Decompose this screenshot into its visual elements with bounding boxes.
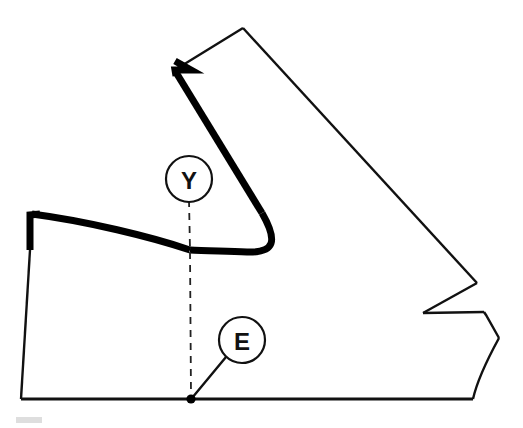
thick-outline-group: [30, 61, 272, 252]
dashed-axis-lower: [190, 252, 191, 396]
thick-left-sweep: [32, 214, 190, 250]
dashed-axis-group: [189, 200, 191, 396]
edge-top-right-diagonal: [243, 28, 477, 283]
callout-balloon-e[interactable]: E: [219, 317, 265, 363]
edge-bottom-right-curve: [473, 338, 499, 399]
edge-right-point-to-notch: [484, 312, 499, 338]
thick-left-bracket: [30, 214, 40, 250]
thick-hook-curve: [190, 213, 272, 252]
dashed-axis-upper: [189, 200, 190, 250]
faint-artifact-mark: [16, 417, 42, 423]
edge-left-vertical: [21, 250, 30, 399]
notch-upper-edge: [423, 283, 477, 313]
edge-top-left-diagonal: [178, 28, 243, 68]
origin-point-e: [186, 394, 195, 403]
thick-upper-shoulder-step: [175, 61, 191, 76]
notch-lower-edge: [423, 312, 484, 313]
line-drawing-svg: Y E: [0, 0, 523, 428]
callout-label-e: E: [234, 328, 250, 355]
callout-label-y: Y: [181, 167, 197, 194]
callout-leader-e: [192, 357, 226, 398]
figure-canvas: Y E: [0, 0, 523, 428]
callout-balloon-y[interactable]: Y: [166, 156, 212, 202]
